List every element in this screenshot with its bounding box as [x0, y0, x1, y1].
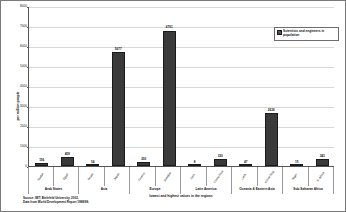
y-axis-tick-label: 2000 [20, 125, 27, 128]
category-cell: Costa Rica [207, 167, 233, 186]
bar-value-label: 5677 [115, 48, 122, 51]
bar-item: 8 [188, 6, 201, 166]
y-axis-tick-label: 4000 [20, 85, 27, 88]
bar [35, 163, 48, 166]
group-cell: Arab States [28, 186, 79, 194]
bar-value-label: 343 [320, 155, 325, 158]
bar-value-label: 2636 [268, 109, 275, 112]
group-cell: Sub-Saharan Africa [283, 186, 334, 194]
y-axis-tick-label: 6000 [20, 45, 27, 48]
category-label: Niger [292, 173, 299, 181]
group-label: Arab States [45, 188, 63, 191]
bar-value-label: 15 [295, 161, 298, 164]
category-label: Greece [138, 172, 146, 182]
bar [112, 52, 125, 166]
category-label: S. Africa [316, 171, 325, 182]
category-axis-labels: SudanEgyptNepalJapanGreeceSwedenHaitiCos… [28, 167, 334, 186]
category-cell: Laos [232, 167, 258, 186]
bar-item: 330 [214, 6, 227, 166]
bar-item: 54 [86, 6, 99, 166]
group-cell: Asia [79, 186, 130, 194]
y-axis-tick-label: 3000 [20, 105, 27, 108]
category-cell: Japan [105, 167, 131, 186]
category-cell: Sweden [156, 167, 182, 186]
y-axis-tick-label: 7000 [20, 25, 27, 28]
bar-value-label: 200 [141, 158, 146, 161]
category-cell: Haiti [181, 167, 207, 186]
group-label: Asia [101, 188, 108, 191]
category-label: Sudan [37, 172, 45, 181]
category-label: Sweden [163, 171, 172, 182]
group-label: Oceania & Eastern Asia [239, 188, 275, 191]
bar-value-label: 47 [244, 161, 247, 164]
bar-item: 156 [35, 6, 48, 166]
bar [86, 164, 99, 166]
group-label: Sub-Saharan Africa [293, 188, 322, 191]
source-note: Source: IWT, Bielefeld University, 2002.… [23, 197, 89, 205]
category-cell: Nepal [79, 167, 105, 186]
group-label: Europe [150, 188, 161, 191]
bar [316, 159, 329, 166]
category-label: Nepal [88, 172, 95, 180]
group-label: Latin America [196, 188, 217, 191]
bar [290, 164, 303, 166]
category-label: Laos [241, 173, 247, 180]
category-cell: S. Africa [309, 167, 335, 186]
bar [163, 31, 176, 166]
bar-item: 47 [239, 6, 252, 166]
group-cell: Latin America [181, 186, 232, 194]
y-axis-tick-label: 1000 [20, 145, 27, 148]
category-cell: Egypt [54, 167, 80, 186]
bar [214, 159, 227, 166]
bar-value-label: 459 [65, 153, 70, 156]
bar-value-label: 8 [194, 161, 196, 164]
chart-figure: per million people 010002000300040005000… [0, 0, 346, 212]
bar-item: 200 [137, 6, 150, 166]
legend-entry-label: Scientists and engineers in population [283, 30, 335, 38]
category-cell: Greece [130, 167, 156, 186]
category-label: Haiti [190, 173, 196, 180]
bar-value-label: 330 [218, 155, 223, 158]
bar-item: 6761 [163, 6, 176, 166]
legend-swatch-icon [277, 30, 282, 35]
chart-legend: Scientists and engineers in population [274, 27, 340, 41]
y-axis-tick-label: 8000 [20, 5, 27, 8]
bar [239, 164, 252, 166]
bar-item: 459 [61, 6, 74, 166]
category-label: Costa Rica [213, 170, 224, 184]
bar-value-label: 156 [39, 159, 44, 162]
bar-value-label: 6761 [166, 26, 173, 29]
bar-item: 5677 [112, 6, 125, 166]
source-note-line-2: Data from World Development Report 1998/… [23, 201, 89, 205]
category-cell: Niger [283, 167, 309, 186]
category-label: Egypt [62, 172, 69, 180]
group-axis-labels: Arab StatesAsiaEuropeLatin AmericaOceani… [28, 186, 334, 194]
bar [61, 157, 74, 166]
category-cell: Korea Rep. [258, 167, 284, 186]
category-label: Japan [113, 172, 120, 181]
bar [137, 162, 150, 166]
category-label: Korea Rep. [264, 169, 275, 183]
group-cell: Oceania & Eastern Asia [232, 186, 283, 194]
category-cell: Sudan [28, 167, 54, 186]
group-cell: Europe [130, 186, 181, 194]
y-axis-title: per million people [16, 91, 20, 120]
bar [188, 164, 201, 166]
bar-value-label: 54 [91, 161, 94, 164]
y-axis-tick-label: 5000 [20, 65, 27, 68]
bar [265, 113, 278, 166]
